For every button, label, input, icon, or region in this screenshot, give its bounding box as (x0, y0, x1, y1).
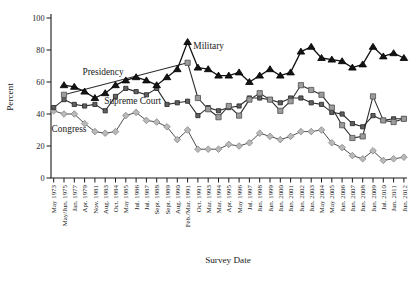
marker-supreme-court (299, 96, 303, 100)
x-tick-label: Jun. 2006 (339, 184, 346, 211)
marker-congress (390, 156, 397, 163)
marker-supreme-court (196, 114, 200, 118)
marker-presidency (370, 94, 375, 99)
annotation-presidency: Presidency (83, 67, 124, 77)
marker-supreme-court (93, 102, 97, 106)
x-tick-label: Jun. 1999 (267, 184, 274, 211)
annotation-congress: Congress (52, 124, 87, 134)
marker-presidency (267, 97, 272, 102)
annotation-supreme-court: Supreme Court (104, 96, 161, 106)
marker-congress (298, 128, 305, 135)
x-tick-label: Jul. 1997 (246, 184, 253, 210)
marker-congress (153, 119, 160, 126)
marker-congress (123, 112, 130, 119)
x-tick-label: Jun. 2009 (370, 184, 377, 211)
x-tick-label: Jun. 1998 (256, 184, 263, 211)
marker-congress (308, 128, 315, 135)
y-tick-label: 80 (36, 46, 44, 55)
x-tick-label: Jun. 2008 (359, 184, 366, 211)
plot-area: 020406080100May 1973May/Jun. 1975Jan. 19… (32, 14, 407, 228)
marker-presidency (350, 135, 355, 140)
marker-military (235, 69, 243, 75)
marker-supreme-court (237, 104, 241, 108)
marker-presidency (401, 116, 406, 121)
marker-military (91, 95, 99, 101)
marker-military (60, 82, 68, 88)
marker-presidency (216, 115, 221, 120)
x-tick-label: Apr. 1995 (225, 184, 232, 212)
marker-supreme-court (319, 102, 323, 106)
marker-presidency (381, 118, 386, 123)
x-tick-label: Jul. 2010 (380, 184, 387, 210)
marker-supreme-court (165, 102, 169, 106)
marker-supreme-court (361, 125, 365, 129)
marker-presidency (226, 103, 231, 108)
x-axis-ticks: May 1973May/Jun. 1975Jan. 1977Apr. 1979N… (50, 178, 407, 227)
marker-congress (195, 146, 202, 153)
marker-congress (215, 146, 222, 153)
marker-presidency (340, 123, 345, 128)
marker-presidency (257, 91, 262, 96)
marker-presidency (61, 92, 66, 97)
x-tick-label: Apr. 1979 (81, 184, 88, 212)
x-axis-title: Survey Date (205, 255, 251, 265)
marker-congress (401, 154, 408, 161)
marker-military (307, 43, 315, 49)
marker-military (256, 72, 264, 78)
y-tick-label: 60 (36, 78, 44, 87)
marker-congress (102, 130, 109, 137)
marker-presidency (247, 97, 252, 102)
marker-military (194, 64, 202, 70)
x-tick-label: May/Jun. 1975 (61, 184, 68, 226)
marker-supreme-court (258, 96, 262, 100)
marker-congress (205, 146, 212, 153)
x-tick-label: Jun. 2001 (287, 184, 294, 211)
x-tick-label: Oct. 1991 (195, 184, 202, 212)
marker-supreme-court (62, 98, 66, 102)
x-tick-label: Jun. 2011 (390, 184, 397, 211)
x-tick-label: Jun. 2000 (277, 184, 284, 211)
marker-presidency (206, 107, 211, 112)
x-tick-label: Sept. 1989 (164, 184, 171, 214)
marker-supreme-court (72, 102, 76, 106)
marker-presidency (288, 99, 293, 104)
marker-military (297, 48, 305, 54)
marker-congress (112, 128, 119, 135)
marker-congress (267, 133, 274, 140)
marker-congress (287, 133, 294, 140)
marker-supreme-court (52, 106, 56, 110)
x-tick-label: Jun. 2007 (349, 184, 356, 211)
marker-supreme-court (124, 86, 128, 90)
marker-presidency (309, 87, 314, 92)
y-tick-label: 40 (36, 110, 44, 119)
marker-supreme-court (216, 109, 220, 113)
marker-congress (236, 143, 243, 150)
x-tick-label: Jun. 2002 (298, 184, 305, 211)
marker-presidency (237, 113, 242, 118)
marker-military (287, 69, 295, 75)
y-axis-title: Percent (5, 83, 15, 111)
x-tick-label: Jul. 1987 (143, 184, 150, 210)
marker-presidency (391, 119, 396, 124)
x-tick-label: Nov. 1981 (92, 184, 99, 213)
marker-supreme-court (186, 99, 190, 103)
y-tick-label: 0 (40, 174, 44, 183)
marker-congress (277, 136, 284, 143)
x-tick-label: May 1973 (50, 184, 57, 213)
marker-supreme-court (309, 101, 313, 105)
x-tick-label: May 1996 (236, 184, 243, 213)
x-tick-label: Oct. 1984 (112, 184, 119, 212)
marker-supreme-court (103, 109, 107, 113)
x-tick-label: Feb./Mar. 1991 (184, 184, 191, 227)
marker-supreme-court (350, 122, 354, 126)
marker-presidency (319, 92, 324, 97)
marker-supreme-court (83, 104, 87, 108)
marker-presidency (185, 60, 190, 65)
marker-presidency (195, 95, 200, 100)
marker-presidency (278, 108, 283, 113)
marker-military (266, 66, 274, 72)
x-tick-label: May 2005 (328, 184, 335, 213)
marker-presidency (329, 105, 334, 110)
x-tick-label: Jul. 1986 (133, 184, 140, 210)
confidence-institutions-figure: Percent Survey Date 020406080100May 1973… (0, 0, 417, 281)
